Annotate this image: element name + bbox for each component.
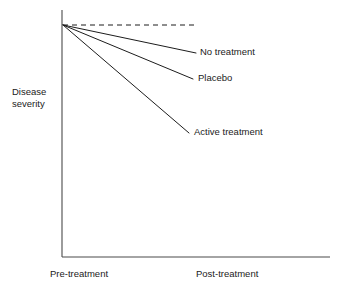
series-line-active-treatment [63, 25, 189, 133]
y-axis-label: Diseaseseverity [12, 86, 60, 109]
disease-severity-chart: Diseaseseverity No treatment Placebo Act… [0, 0, 341, 293]
x-tick-label-pre-treatment: Pre-treatment [50, 268, 108, 280]
series-line-placebo [63, 25, 193, 79]
x-tick-label-post-treatment: Post-treatment [196, 268, 258, 280]
chart-plot-area [0, 0, 341, 293]
y-axis-label-line1: Disease [12, 86, 46, 97]
series-label-placebo: Placebo [198, 72, 232, 84]
series-label-active-treatment: Active treatment [194, 126, 263, 138]
y-axis-label-line2: severity [12, 98, 45, 109]
series-label-no-treatment: No treatment [200, 46, 255, 58]
series-line-no-treatment [63, 25, 196, 53]
